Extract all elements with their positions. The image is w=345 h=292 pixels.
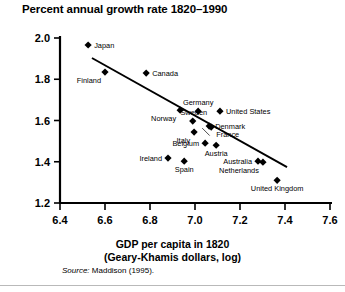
source-value: Maddison (1995). (92, 266, 154, 275)
data-label-germany: Germany (183, 98, 214, 107)
data-label-canada: Canada (152, 69, 179, 78)
data-point-ireland[interactable] (164, 154, 171, 161)
data-point-sweden[interactable] (189, 118, 196, 125)
x-axis-tick-label-0: 6.4 (52, 214, 68, 226)
data-label-norway: Norway (151, 114, 176, 123)
data-point-united-kingdom[interactable] (274, 177, 281, 184)
data-label-france: France (216, 130, 239, 139)
data-point-austria[interactable] (213, 142, 220, 149)
chart-figure: Percent annual growth rate 1820–1990 1.2… (0, 0, 345, 292)
y-axis-tick-label-1: 1.4 (35, 156, 51, 168)
x-axis-title-line2: (Geary-Khamis dollars, log) (0, 251, 345, 264)
x-axis-title: GDP per capita in 1820 (Geary-Khamis dol… (0, 238, 345, 263)
data-label-belgium: Belgium (172, 139, 199, 148)
data-label-spain: Spain (175, 165, 194, 174)
data-point-italy[interactable] (191, 128, 198, 135)
data-label-australia: Australia (223, 157, 253, 166)
data-point-united-states[interactable] (216, 108, 223, 115)
x-axis-tick-label-5: 7.4 (277, 214, 293, 226)
y-axis-tick-label-0: 1.2 (35, 197, 50, 209)
x-axis-tick-label-6: 7.6 (322, 214, 337, 226)
y-axis-tick-label-4: 2.0 (35, 32, 50, 44)
data-point-japan[interactable] (85, 41, 92, 48)
data-point-canada[interactable] (143, 69, 150, 76)
source-note: Source: Maddison (1995). (62, 266, 154, 275)
y-axis-tick-label-2: 1.6 (35, 115, 50, 127)
data-point-finland[interactable] (101, 68, 108, 75)
data-label-finland: Finland (77, 76, 101, 85)
x-axis-tick-label-1: 6.6 (97, 214, 112, 226)
x-axis-tick-label-2: 6.8 (142, 214, 157, 226)
data-label-japan: Japan (94, 41, 114, 50)
data-label-sweden: Sweden (180, 108, 207, 117)
data-label-united-kingdom: United Kingdom (251, 184, 304, 193)
data-point-belgium[interactable] (202, 140, 209, 147)
data-label-united-states: United States (226, 107, 271, 116)
data-point-netherlands[interactable] (259, 159, 266, 166)
france-leader-line (202, 128, 210, 136)
source-label: Source: (62, 266, 90, 275)
x-axis-tick-label-3: 7.0 (187, 214, 202, 226)
data-label-netherlands: Netherlands (219, 166, 259, 175)
x-axis-title-line1: GDP per capita in 1820 (116, 238, 230, 250)
data-label-ireland: Ireland (139, 154, 162, 163)
data-point-spain[interactable] (181, 158, 188, 165)
x-axis-tick-label-4: 7.2 (232, 214, 247, 226)
y-axis-tick-label-3: 1.8 (35, 73, 50, 85)
bottom-divider (0, 285, 345, 286)
